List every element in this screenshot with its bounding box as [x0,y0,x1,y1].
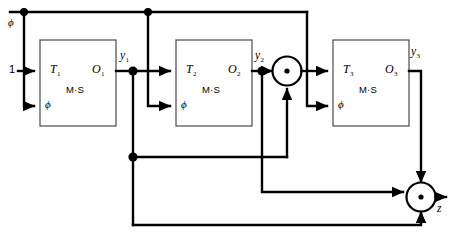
block-stage2-input-text: T [186,62,193,76]
block-stage3-box [333,40,409,126]
signal-y3-label: y3 [411,46,420,58]
block-stage3-input-text: T [343,62,350,76]
junction-clock-stage1 [20,8,28,16]
block-stage2-input-sub: 2 [193,70,197,78]
block-stage2-output-text: O [228,62,237,76]
block-stage2-output-sub: 2 [237,70,241,78]
junction-clock-stage2 [144,8,152,16]
block-stage2-clock-label: ϕ [181,99,187,110]
block-stage2-output-label: O2 [228,63,240,75]
block-stage3-output-sub: 3 [394,70,398,78]
logic-diagram: ϕ 1 T1 O1 M·S ϕ T2 O2 M·S ϕ T3 O3 M·S ϕ … [0,0,452,236]
block-stage3-output-label: O3 [385,63,397,75]
constant-input-label: 1 [9,64,15,75]
output-z-label: z [437,203,441,215]
signal-y1-sub: 1 [125,56,129,64]
block-stage1-input-text: T [50,62,57,76]
clock-rail-label: ϕ [8,17,14,28]
block-stage2-input-label: T2 [186,63,196,75]
clock-drop-stage2 [148,12,170,106]
block-stage1-output-text: O [92,62,101,76]
diagram-canvas [0,0,452,236]
block-stage1-clock-label: ϕ [45,99,51,110]
block-stage3-input-label: T3 [343,63,353,75]
block-stage2-box [176,40,252,126]
block-stage3-clock-label: ϕ [338,99,344,110]
block-stage2-type-label: M·S [202,85,220,95]
signal-y2-sub: 2 [260,56,264,64]
signal-y2-label: y2 [255,50,264,62]
block-stage3-output-text: O [385,62,394,76]
block-stage1-type-label: M·S [66,85,84,95]
signal-y3-sub: 3 [416,52,420,60]
wire-O3-to-y3 [409,71,421,182]
wire-y2-to-gate2 [262,157,403,192]
gate1-dot [284,68,289,73]
signal-y1-label: y1 [120,50,129,62]
block-stage1-box [40,40,116,126]
gate2-dot [418,194,423,199]
block-stage1-output-label: O1 [92,63,104,75]
block-stage3-input-sub: 3 [350,70,354,78]
block-stage1-input-sub: 1 [57,70,61,78]
wire-y1-to-gate2 [133,212,421,225]
block-stage1-output-sub: 1 [101,70,105,78]
clock-drop-stage1 [24,12,34,106]
block-stage1-input-label: T1 [50,63,60,75]
clock-drop-stage3 [307,12,327,106]
block-stage3-type-label: M·S [359,85,377,95]
